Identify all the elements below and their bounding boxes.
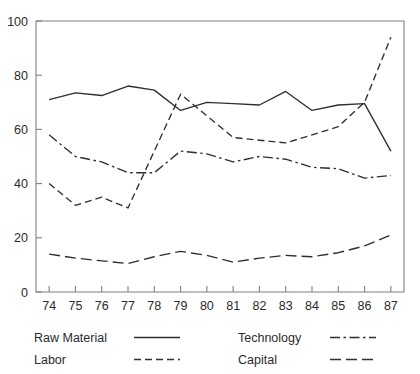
series-line-labor (49, 37, 391, 208)
plot-border (36, 21, 404, 292)
x-tick-label: 84 (305, 299, 319, 313)
y-tick-label: 20 (14, 231, 28, 245)
x-tick-label: 81 (226, 299, 240, 313)
x-tick-label: 75 (68, 299, 82, 313)
x-tick-label: 83 (279, 299, 293, 313)
x-tick-label: 86 (358, 299, 372, 313)
x-tick-label: 79 (174, 299, 188, 313)
y-axis-tick-labels: 020406080100 (7, 15, 28, 300)
plot-frame (36, 21, 404, 292)
y-axis-ticks (36, 21, 42, 292)
y-tick-label: 60 (14, 123, 28, 137)
legend-label-labor: Labor (34, 353, 66, 367)
legend-label-technology: Technology (238, 331, 302, 345)
series-line-technology (49, 135, 391, 178)
x-axis-tick-labels: 7475767778798081828384858687 (42, 299, 398, 313)
x-tick-label: 87 (384, 299, 398, 313)
data-series-layer (49, 37, 391, 263)
y-tick-label: 0 (21, 286, 28, 300)
x-axis-ticks (49, 286, 391, 292)
x-tick-label: 80 (200, 299, 214, 313)
y-tick-label: 100 (7, 15, 28, 29)
x-tick-label: 77 (121, 299, 135, 313)
x-tick-label: 85 (331, 299, 345, 313)
y-tick-label: 40 (14, 177, 28, 191)
series-line-raw-material (49, 86, 391, 151)
series-line-capital (49, 235, 391, 263)
legend-label-capital: Capital (238, 353, 277, 367)
x-tick-label: 76 (95, 299, 109, 313)
chart-legend: Raw MaterialTechnologyLaborCapital (34, 331, 376, 367)
x-tick-label: 82 (252, 299, 266, 313)
legend-label-raw-material: Raw Material (34, 331, 107, 345)
x-tick-label: 74 (42, 299, 56, 313)
line-chart: 020406080100 747576777879808182838485868… (0, 0, 420, 374)
y-tick-label: 80 (14, 69, 28, 83)
x-tick-label: 78 (147, 299, 161, 313)
